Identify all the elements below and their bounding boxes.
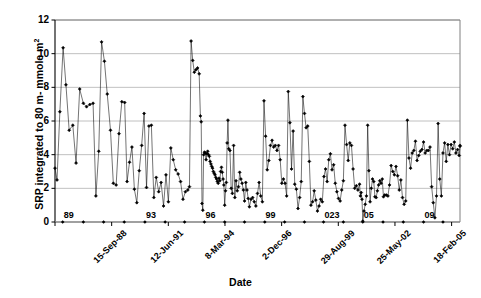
year-annotation: 99: [266, 210, 276, 220]
year-annotation: 96: [205, 210, 215, 220]
y-axis-tick-label: 8: [25, 81, 49, 92]
y-axis-tick-label: 6: [25, 115, 49, 126]
y-axis-title-superscript: 2: [33, 39, 40, 43]
year-annotation: 023: [325, 210, 340, 220]
y-axis-tick-label: 2: [25, 182, 49, 193]
chart-container: SRP integrated to 80 m- mmole m2 Date 02…: [0, 0, 481, 298]
y-axis-tick-label: 10: [25, 48, 49, 59]
year-annotation: 09: [425, 210, 435, 220]
year-annotation: 93: [146, 210, 156, 220]
data-markers-group: [54, 40, 462, 223]
year-annotation: 05: [364, 210, 374, 220]
y-axis-tick-label: 12: [25, 14, 49, 25]
y-axis-tick-label: 4: [25, 149, 49, 160]
gridlines-group: [55, 20, 460, 188]
chart-plot-svg: [0, 0, 481, 298]
year-annotation: 89: [64, 210, 74, 220]
axes-group: [52, 20, 461, 226]
x-axis-title: Date: [0, 276, 481, 288]
y-axis-tick-label: 0: [25, 216, 49, 227]
